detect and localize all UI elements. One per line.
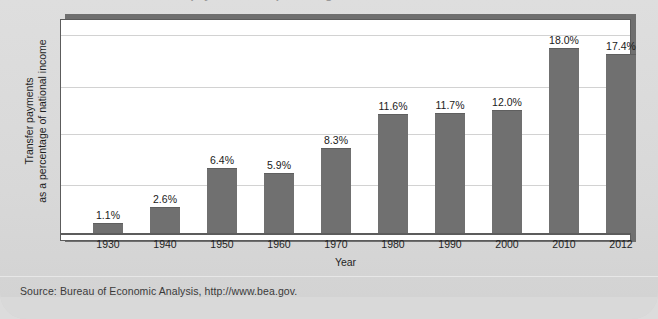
- x-tick-1980: 1980: [365, 238, 421, 250]
- figure-panel: Transfer payments as a percentage of nat…: [0, 0, 658, 319]
- bar-value-2010: 18.0%: [535, 34, 593, 46]
- bar-group[interactable]: 1.1%: [85, 20, 131, 234]
- y-axis-title-line2: as a percentage of national income: [36, 21, 49, 221]
- x-tick-1940: 1940: [137, 238, 193, 250]
- bar-value-2012: 17.4%: [592, 40, 650, 52]
- x-tick-1950: 1950: [194, 238, 250, 250]
- bar-value-1950: 6.4%: [193, 154, 251, 166]
- x-tick-1930: 1930: [80, 238, 136, 250]
- source-note: Source: Bureau of Economic Analysis, htt…: [20, 285, 297, 297]
- source-divider: [0, 276, 658, 277]
- bar-group[interactable]: 11.7%: [427, 20, 473, 234]
- bar-group[interactable]: 12.0%: [484, 20, 530, 234]
- bar-group[interactable]: 18.0%: [541, 20, 587, 234]
- bar-group[interactable]: 5.9%: [256, 20, 302, 234]
- x-tick-1990: 1990: [422, 238, 478, 250]
- plot-area: 1.1% 2.6% 6.4% 5.9% 8.3% 11.6% 11.7%: [61, 20, 630, 234]
- bar-value-1990: 11.7%: [421, 99, 479, 111]
- x-axis-line: [60, 233, 631, 235]
- bar-1950[interactable]: [207, 168, 237, 234]
- bar-group[interactable]: 2.6%: [142, 20, 188, 234]
- bar-value-1940: 2.6%: [136, 193, 194, 205]
- bar-1990[interactable]: [435, 113, 465, 234]
- bar-group[interactable]: 11.6%: [370, 20, 416, 234]
- x-tick-2010: 2010: [536, 238, 592, 250]
- bar-1960[interactable]: [264, 173, 294, 234]
- x-axis-tick-labels: 1930 1940 1950 1960 1970 1980 1990 2000 …: [61, 238, 630, 254]
- bar-1980[interactable]: [378, 114, 408, 234]
- bar-value-1970: 8.3%: [307, 134, 365, 146]
- bar-value-1930: 1.1%: [79, 209, 137, 221]
- x-tick-1960: 1960: [251, 238, 307, 250]
- bar-1970[interactable]: [321, 148, 351, 234]
- x-axis-title: Year: [61, 256, 630, 268]
- bar-group[interactable]: 17.4%: [598, 20, 644, 234]
- panel-bottom-edge: [0, 297, 658, 319]
- bar-value-2000: 12.0%: [478, 96, 536, 108]
- y-axis-title: Transfer payments as a percentage of nat…: [23, 21, 49, 221]
- x-tick-2000: 2000: [479, 238, 535, 250]
- x-tick-2012: 2012: [593, 238, 649, 250]
- bar-2000[interactable]: [492, 110, 522, 234]
- figure-title: Transfer payments as a percentage of nat…: [140, 0, 540, 3]
- bar-value-1960: 5.9%: [250, 159, 308, 171]
- x-tick-1970: 1970: [308, 238, 364, 250]
- bar-group[interactable]: 6.4%: [199, 20, 245, 234]
- bar-group[interactable]: 8.3%: [313, 20, 359, 234]
- bar-2010[interactable]: [549, 48, 579, 234]
- bar-2012[interactable]: [606, 54, 636, 234]
- bar-value-1980: 11.6%: [364, 100, 422, 112]
- bar-1940[interactable]: [150, 207, 180, 234]
- y-axis-title-line1: Transfer payments: [23, 21, 36, 221]
